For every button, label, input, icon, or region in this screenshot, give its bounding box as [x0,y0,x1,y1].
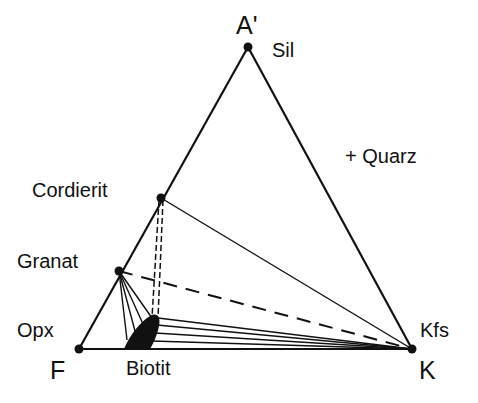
label-sil: Sil [272,40,294,60]
label-biotit: Biotit [126,358,170,378]
label-quarz: + Quarz [345,146,417,166]
label-granat: Granat [17,251,78,271]
point-sil [244,43,253,52]
label-f: F [50,358,65,383]
tieline-granat-kfs [119,271,412,349]
triangle-outline [79,47,412,349]
label-opx: Opx [17,320,54,340]
point-cordierit [157,194,166,203]
label-cordierit: Cordierit [32,180,108,200]
tieline-cordierit-kfs [161,198,412,349]
phase-points [75,43,417,354]
label-a-prime: A' [236,13,257,38]
point-kfs [408,345,417,354]
label-k: K [419,358,436,383]
tieline-fan-biotit-kfs [152,318,412,349]
label-kfs: Kfs [420,320,449,340]
point-granat [115,267,124,276]
ternary-diagram [0,0,478,403]
point-opx [75,345,84,354]
